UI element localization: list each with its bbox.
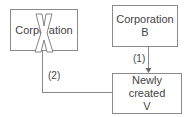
- arrowhead-icon: [146, 68, 152, 73]
- cross-out-x-icon: [35, 14, 53, 52]
- diagram-overlay: [0, 0, 190, 117]
